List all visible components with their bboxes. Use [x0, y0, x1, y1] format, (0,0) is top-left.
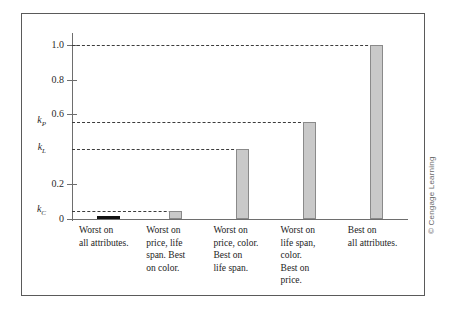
category-label: Worst on life span, color. Best on price…: [281, 224, 354, 287]
category-label: Worst on all attributes.: [79, 224, 152, 249]
copyright-notice: © Cengage Learning: [427, 144, 436, 234]
figure-container: 1.00.80.60.20 kPkLkC Worst on all attrib…: [0, 0, 456, 313]
category-label: Worst on price, life span. Best on color…: [146, 224, 219, 274]
category-labels: Worst on all attributes.Worst on price, …: [0, 0, 456, 313]
category-label: Worst on price, color. Best on life span…: [213, 224, 286, 274]
category-label: Best on all attributes.: [348, 224, 421, 249]
